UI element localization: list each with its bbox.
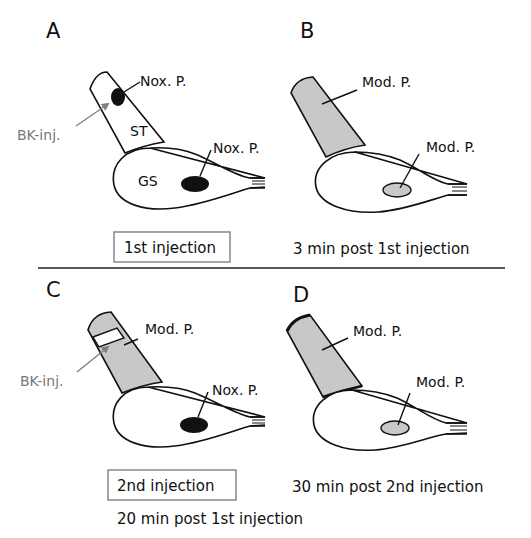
bk-injection-label: BK-inj. bbox=[17, 127, 60, 143]
gs-structure bbox=[313, 390, 467, 450]
st-structure bbox=[291, 77, 365, 157]
time-caption: 30 min post 2nd injection bbox=[292, 478, 483, 496]
st-state-label: Mod. P. bbox=[353, 323, 402, 339]
noxious-spot-st bbox=[111, 88, 125, 106]
injection-caption: 1st injection bbox=[124, 239, 216, 257]
st-label: ST bbox=[130, 123, 148, 139]
panel-d: D Mod. P. Mod. P. 30 min post 2nd inject… bbox=[287, 283, 483, 496]
gs-state-label: Mod. P. bbox=[416, 374, 465, 390]
gs-structure bbox=[315, 152, 467, 212]
st-state-label: Mod. P. bbox=[145, 321, 194, 337]
injection-caption: 2nd injection bbox=[117, 477, 214, 495]
panel-letter: B bbox=[300, 19, 314, 43]
noxious-spot-gs bbox=[181, 176, 209, 192]
figure-canvas: A Nox. P. ST BK-inj. GS Nox. P. 1st inje… bbox=[0, 0, 531, 538]
panel-letter: A bbox=[46, 19, 61, 43]
panel-letter: C bbox=[46, 278, 61, 302]
gs-label: GS bbox=[138, 173, 158, 189]
time-caption: 3 min post 1st injection bbox=[293, 240, 470, 258]
panel-letter: D bbox=[293, 283, 309, 307]
panel-c: C Mod. P. BK-inj. Nox. P. 2nd injection … bbox=[20, 278, 303, 528]
gs-state-label: Mod. P. bbox=[426, 139, 475, 155]
time-caption: 20 min post 1st injection bbox=[117, 510, 303, 528]
moderate-spot-gs bbox=[383, 183, 411, 197]
bk-injection-arrow bbox=[76, 104, 108, 126]
gs-state-label: Nox. P. bbox=[213, 140, 260, 156]
st-state-label: Nox. P. bbox=[140, 73, 187, 89]
noxious-spot-gs bbox=[180, 417, 208, 433]
gs-state-label: Nox. P. bbox=[212, 382, 259, 398]
st-state-label: Mod. P. bbox=[362, 74, 411, 90]
st-structure bbox=[287, 315, 362, 397]
panel-b: B Mod. P. Mod. P. 3 min post 1st injecti… bbox=[291, 19, 475, 258]
bk-injection-label: BK-inj. bbox=[20, 373, 63, 389]
moderate-spot-gs bbox=[381, 421, 409, 435]
panel-a: A Nox. P. ST BK-inj. GS Nox. P. 1st inje… bbox=[17, 19, 265, 262]
